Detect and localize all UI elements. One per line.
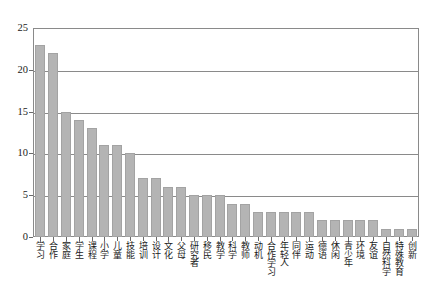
x-axis-label-text: 合作学习 [266, 241, 275, 275]
x-axis-label-text: 环境 [356, 241, 365, 258]
bar [253, 212, 263, 237]
x-axis-label: 移民 [200, 241, 213, 305]
x-axis-label-text: 学生 [74, 241, 83, 258]
bar-chart: 0510152025 学习合作家庭学生课程小学儿童技能培训设计文化父母研究者移民… [0, 0, 429, 305]
x-axis-label-text: 儿童 [113, 241, 122, 258]
bar [266, 212, 276, 237]
bar [35, 45, 45, 237]
bar [304, 212, 314, 237]
x-axis-label-text: 创新 [407, 241, 416, 258]
y-tick-label-10: 10 [18, 148, 29, 159]
y-tick-mark-20 [29, 70, 33, 71]
x-axis-label-text: 德语 [317, 241, 326, 258]
x-axis-label-text: 教学 [215, 241, 224, 258]
x-axis-label-text: 培训 [138, 241, 147, 258]
x-axis-label: 家庭 [60, 241, 73, 305]
x-axis-label: 合作 [47, 241, 60, 305]
bar [355, 220, 365, 237]
bar [163, 187, 173, 237]
x-axis-label: 特殊教育 [392, 241, 405, 305]
x-axis-label: 运动 [303, 241, 316, 305]
x-axis-label-text: 设计 [151, 241, 160, 258]
y-tick-label-20: 20 [18, 65, 29, 76]
y-tick-mark-15 [29, 112, 33, 113]
y-tick-label-25: 25 [18, 23, 29, 34]
x-axis-label: 父母 [175, 241, 188, 305]
x-axis-label-text: 青少年 [343, 241, 352, 267]
x-axis-label: 课程 [85, 241, 98, 305]
bar [227, 204, 237, 237]
x-axis-label: 同伴 [290, 241, 303, 305]
x-axis-label: 德语 [316, 241, 329, 305]
x-axis-label-text: 合作 [49, 241, 58, 258]
bar [317, 220, 327, 237]
x-axis-label: 动机 [252, 241, 265, 305]
x-axis-label-text: 技能 [125, 241, 134, 258]
bar [240, 204, 250, 237]
bar [407, 229, 417, 237]
x-axis-label: 青少年 [341, 241, 354, 305]
y-tick-label-0: 0 [23, 232, 28, 243]
y-tick-label-15: 15 [18, 106, 29, 117]
bar [189, 195, 199, 237]
bar [151, 178, 161, 237]
x-axis-label-text: 科学 [228, 241, 237, 258]
bar [394, 229, 404, 237]
x-axis-label: 年轻人 [277, 241, 290, 305]
x-axis-label: 研究者 [188, 241, 201, 305]
bar [61, 112, 71, 237]
x-axis-label: 小学 [98, 241, 111, 305]
x-axis-label-text: 移民 [202, 241, 211, 258]
x-axis-label-text: 友谊 [369, 241, 378, 258]
x-axis-label: 友谊 [367, 241, 380, 305]
bar [279, 212, 289, 237]
x-axis-label: 科学 [226, 241, 239, 305]
y-tick-mark-10 [29, 153, 33, 154]
y-axis: 0510152025 [0, 0, 33, 237]
x-axis-labels: 学习合作家庭学生课程小学儿童技能培训设计文化父母研究者移民教学科学教师动机合作学… [34, 241, 418, 305]
bar [343, 220, 353, 237]
bar [176, 187, 186, 237]
x-axis-label-text: 年轻人 [279, 241, 288, 267]
bar [99, 145, 109, 237]
x-axis-label-text: 文化 [164, 241, 173, 258]
x-axis-label-text: 自然科学 [381, 241, 390, 275]
bar [138, 178, 148, 237]
x-axis-label: 设计 [149, 241, 162, 305]
x-axis-label-text: 同伴 [292, 241, 301, 258]
x-axis-label: 学生 [72, 241, 85, 305]
x-axis-label: 教学 [213, 241, 226, 305]
x-axis-label: 合作学习 [264, 241, 277, 305]
bar [74, 120, 84, 237]
bar [330, 220, 340, 237]
bar [125, 153, 135, 237]
x-axis-label-text: 运动 [305, 241, 314, 258]
y-tick-label-5: 5 [23, 190, 28, 201]
bar [48, 53, 58, 237]
x-axis-label: 培训 [136, 241, 149, 305]
bars-container [34, 28, 418, 237]
x-axis-label-text: 动机 [253, 241, 262, 258]
x-axis-label-text: 研究者 [189, 241, 198, 267]
x-axis-label-text: 父母 [177, 241, 186, 258]
y-tick-mark-5 [29, 195, 33, 196]
bar [291, 212, 301, 237]
bar [87, 128, 97, 237]
x-axis-label-text: 学习 [36, 241, 45, 258]
bar [215, 195, 225, 237]
x-axis-label: 创新 [405, 241, 418, 305]
bar [368, 220, 378, 237]
x-axis-label: 学习 [34, 241, 47, 305]
x-axis-label: 教师 [239, 241, 252, 305]
x-axis-label: 自然科学 [380, 241, 393, 305]
y-tick-mark-0 [29, 237, 33, 238]
x-axis-label-text: 课程 [87, 241, 96, 258]
x-axis-label: 环境 [354, 241, 367, 305]
x-axis-label: 技能 [124, 241, 137, 305]
x-axis-label-text: 休闲 [330, 241, 339, 258]
x-axis-label-text: 小学 [100, 241, 109, 258]
bar [381, 229, 391, 237]
x-axis-label-text: 教师 [241, 241, 250, 258]
x-axis-label-text: 特殊教育 [394, 241, 403, 275]
bar [202, 195, 212, 237]
